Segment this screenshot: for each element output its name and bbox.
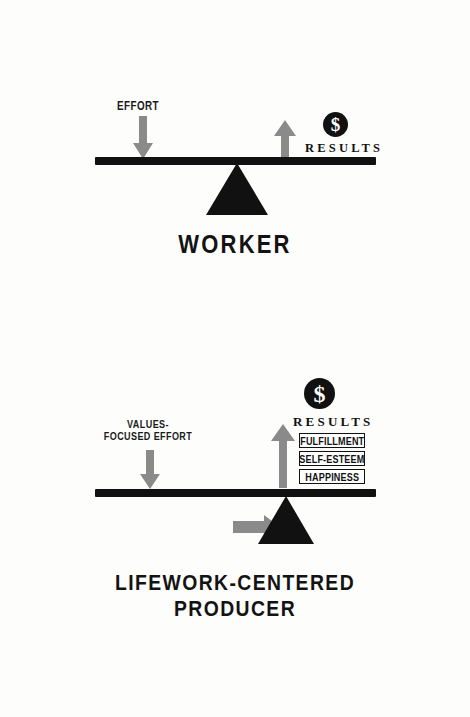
- up-arrow-icon: [270, 424, 296, 488]
- dollar-badge-icon: $: [304, 378, 335, 409]
- benefit-box-self-esteem: SELF-ESTEEM: [299, 451, 365, 466]
- benefit-label: SELF-ESTEEM: [299, 453, 364, 465]
- producer-results-label: RESULTS: [293, 414, 373, 430]
- producer-title-line2: PRODUCER: [81, 596, 389, 622]
- producer-effort-label: VALUES- FOCUSED EFFORT: [95, 418, 202, 443]
- down-arrow-icon: [132, 116, 154, 160]
- figure-canvas: EFFORT $ RESULTS WORKER $ RESULTS VALUES…: [0, 0, 470, 717]
- dollar-badge-icon: $: [323, 112, 348, 137]
- producer-effort-label-line2: FOCUSED EFFORT: [95, 430, 202, 442]
- benefit-box-fulfillment: FULFILLMENT: [299, 433, 365, 448]
- triangle-fulcrum-icon: [206, 163, 268, 215]
- worker-results-label: RESULTS: [305, 141, 383, 156]
- producer-title: LIFEWORK-CENTERED PRODUCER: [81, 570, 389, 622]
- triangle-fulcrum-icon: [258, 496, 314, 544]
- worker-title: WORKER: [103, 230, 367, 260]
- lever-beam: [95, 489, 376, 497]
- benefit-label: FULFILLMENT: [300, 435, 364, 447]
- worker-effort-label: EFFORT: [100, 100, 175, 113]
- up-arrow-icon: [273, 120, 297, 162]
- down-arrow-icon: [139, 450, 161, 490]
- benefit-box-happiness: HAPPINESS: [299, 469, 365, 484]
- producer-effort-label-line1: VALUES-: [95, 418, 202, 430]
- benefit-label: HAPPINESS: [305, 471, 359, 483]
- producer-title-line1: LIFEWORK-CENTERED: [81, 570, 389, 596]
